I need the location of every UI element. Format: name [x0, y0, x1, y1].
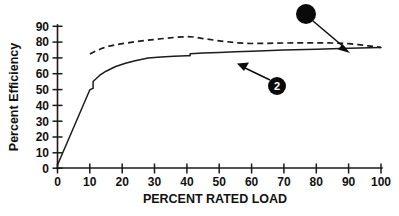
callout-marker-1	[296, 4, 350, 53]
y-tick-label: 30	[36, 115, 50, 129]
y-tick-label: 50	[36, 83, 50, 97]
x-tick-label: 90	[342, 175, 356, 189]
callout-1-disc	[296, 4, 316, 24]
callout-1-arrow-shaft	[313, 21, 345, 48]
x-tick-label: 10	[83, 175, 97, 189]
series-line-solid	[58, 47, 382, 165]
chart-figure: 90 80 70 60 50 40 30 20 10 0 0 10 20 30 …	[0, 0, 399, 216]
callout-2-arrow-shaft	[243, 67, 270, 80]
y-tick-label: 10	[36, 146, 50, 160]
y-tick-label: 0	[42, 162, 49, 176]
y-tick-label: 20	[36, 130, 50, 144]
x-tick-label: 100	[371, 175, 391, 189]
y-tick-label: 70	[36, 51, 50, 65]
x-tick-label: 70	[277, 175, 291, 189]
y-tick-label: 90	[36, 20, 50, 34]
callout-2-label: 2	[274, 80, 280, 92]
x-tick-label: 80	[310, 175, 324, 189]
y-tick-label: 40	[36, 99, 50, 113]
x-tick-label: 30	[148, 175, 162, 189]
x-tick-label: 60	[245, 175, 259, 189]
x-tick-label: 50	[213, 175, 227, 189]
y-tick-label: 60	[36, 67, 50, 81]
x-tick-label: 0	[54, 175, 61, 189]
y-axis-title: Percent Efficiency	[7, 43, 21, 151]
x-axis-title: PERCENT RATED LOAD	[143, 192, 287, 206]
x-tick-label: 20	[116, 175, 130, 189]
x-tick-label: 40	[180, 175, 194, 189]
callout-marker-2: 2	[237, 63, 286, 96]
y-tick-label: 80	[36, 35, 50, 49]
chart-plot-area: 90 80 70 60 50 40 30 20 10 0 0 10 20 30 …	[0, 0, 399, 216]
